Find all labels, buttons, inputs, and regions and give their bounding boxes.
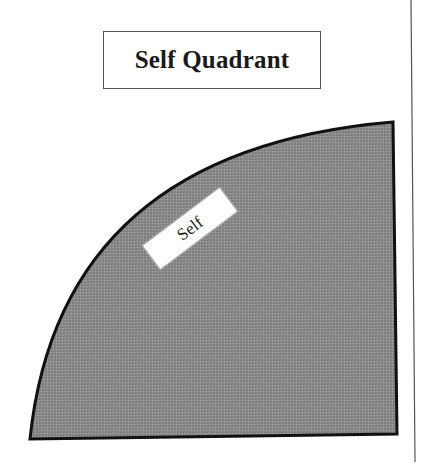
title-box: Self Quadrant	[103, 31, 321, 89]
divider-line	[411, 0, 415, 462]
self-quadrant-shape	[30, 122, 397, 439]
diagram-title: Self Quadrant	[135, 46, 290, 74]
